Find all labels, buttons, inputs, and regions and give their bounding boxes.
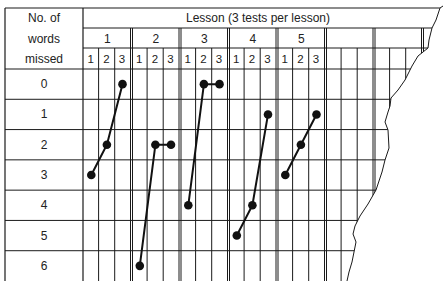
data-point bbox=[151, 140, 160, 149]
test-label: 1 bbox=[282, 53, 288, 65]
y-tick-label: 1 bbox=[41, 107, 48, 121]
test-label: 2 bbox=[152, 53, 158, 65]
series-line bbox=[140, 145, 171, 266]
data-point bbox=[103, 140, 112, 149]
data-point bbox=[297, 140, 306, 149]
data-point bbox=[215, 80, 224, 89]
series-line bbox=[188, 84, 219, 205]
lesson-label: 3 bbox=[201, 32, 208, 46]
chart-title: Lesson (3 tests per lesson) bbox=[186, 11, 330, 25]
chart-series bbox=[87, 80, 321, 270]
y-tick-label: 2 bbox=[41, 138, 48, 152]
torn-edge bbox=[347, 6, 443, 281]
test-label: 3 bbox=[167, 53, 173, 65]
y-tick-label: 6 bbox=[41, 259, 48, 273]
chart-labels: No. ofwordsmissedLesson (3 tests per les… bbox=[25, 11, 330, 273]
test-label: 2 bbox=[200, 53, 206, 65]
y-tick-label: 0 bbox=[41, 77, 48, 91]
lesson-label: 5 bbox=[298, 32, 305, 46]
test-label: 3 bbox=[313, 53, 319, 65]
data-point bbox=[248, 201, 257, 210]
data-point bbox=[167, 140, 176, 149]
test-label: 1 bbox=[136, 53, 142, 65]
data-point bbox=[233, 231, 242, 240]
y-tick-label: 3 bbox=[41, 168, 48, 182]
series-line bbox=[237, 114, 268, 235]
y-tick-label: 5 bbox=[41, 229, 48, 243]
row-header-line3: missed bbox=[25, 52, 63, 66]
test-label: 2 bbox=[297, 53, 303, 65]
test-label: 3 bbox=[216, 53, 222, 65]
test-label: 1 bbox=[88, 53, 94, 65]
data-point bbox=[118, 80, 127, 89]
progress-chart: No. ofwordsmissedLesson (3 tests per les… bbox=[0, 0, 443, 281]
chart-grid bbox=[5, 8, 443, 281]
data-point bbox=[281, 171, 290, 180]
lesson-label: 4 bbox=[249, 32, 256, 46]
test-label: 1 bbox=[233, 53, 239, 65]
test-label: 2 bbox=[249, 53, 255, 65]
row-header-line1: No. of bbox=[28, 11, 61, 25]
data-point bbox=[264, 110, 273, 119]
test-label: 2 bbox=[103, 53, 109, 65]
data-point bbox=[184, 201, 193, 210]
test-label: 1 bbox=[185, 53, 191, 65]
row-header-line2: words bbox=[27, 32, 60, 46]
lesson-label: 2 bbox=[152, 32, 159, 46]
test-label: 3 bbox=[119, 53, 125, 65]
lesson-label: 1 bbox=[104, 32, 111, 46]
data-point bbox=[136, 262, 145, 271]
test-label: 3 bbox=[264, 53, 270, 65]
data-point bbox=[87, 171, 96, 180]
data-point bbox=[312, 110, 321, 119]
y-tick-label: 4 bbox=[41, 198, 48, 212]
data-point bbox=[200, 80, 209, 89]
